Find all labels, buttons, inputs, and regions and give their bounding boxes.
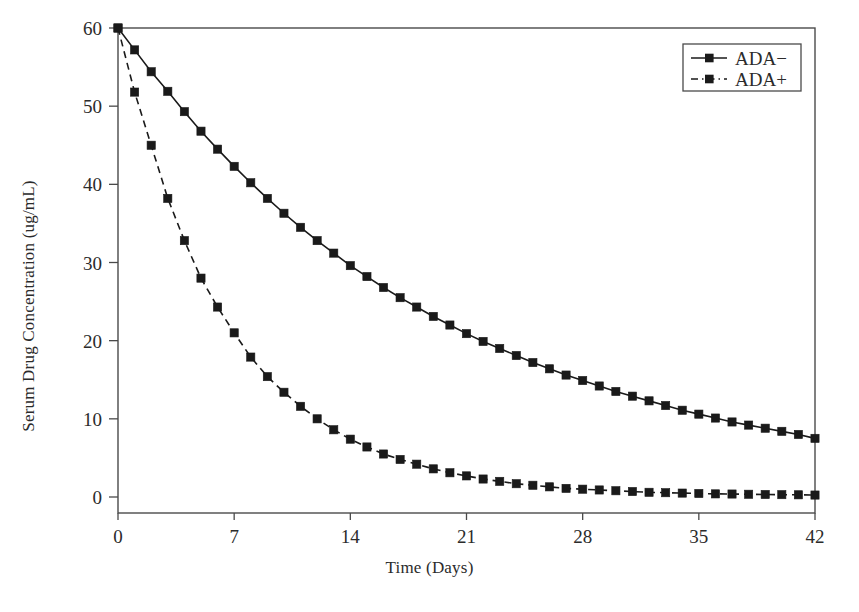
legend-marker-swatch xyxy=(705,75,714,84)
data-point-marker xyxy=(529,358,537,366)
data-point-marker xyxy=(263,194,271,202)
data-point-marker xyxy=(296,223,304,231)
data-point-marker xyxy=(363,443,371,451)
data-point-marker xyxy=(446,321,454,329)
y-tick-label: 30 xyxy=(83,253,102,274)
data-point-marker xyxy=(479,475,487,483)
data-point-marker xyxy=(811,491,819,499)
data-point-marker xyxy=(313,237,321,245)
data-point-marker xyxy=(695,489,703,497)
x-tick-label: 0 xyxy=(113,526,123,547)
data-point-marker xyxy=(579,376,587,384)
y-tick-label: 40 xyxy=(83,174,102,195)
data-point-marker xyxy=(728,418,736,426)
data-point-marker xyxy=(628,392,636,400)
data-point-marker xyxy=(263,373,271,381)
data-point-marker xyxy=(711,490,719,498)
data-point-marker xyxy=(811,434,819,442)
data-point-marker xyxy=(346,262,354,270)
y-tick-label: 20 xyxy=(83,331,102,352)
data-point-marker xyxy=(396,455,404,463)
x-tick-label: 7 xyxy=(229,526,239,547)
data-point-marker xyxy=(180,108,188,116)
data-point-marker xyxy=(230,162,238,170)
data-point-marker xyxy=(794,491,802,499)
data-point-marker xyxy=(562,484,570,492)
y-axis-title: Serum Drug Concentration (ug/mL) xyxy=(14,0,44,612)
serum-concentration-line-chart: 071421283542 0102030405060 ADA−ADA+ xyxy=(0,0,859,612)
x-tick-labels: 071421283542 xyxy=(113,526,824,547)
data-point-marker xyxy=(678,406,686,414)
x-axis-title: Time (Days) xyxy=(0,558,859,578)
data-point-marker xyxy=(778,427,786,435)
data-point-marker xyxy=(745,421,753,429)
legend-marker-swatch xyxy=(705,54,714,63)
data-point-marker xyxy=(562,371,570,379)
data-point-marker xyxy=(496,344,504,352)
data-point-marker xyxy=(612,487,620,495)
data-point-marker xyxy=(247,353,255,361)
x-tick-label: 28 xyxy=(573,526,592,547)
data-point-marker xyxy=(745,490,753,498)
data-point-marker xyxy=(678,489,686,497)
data-point-marker xyxy=(512,480,520,488)
data-point-marker xyxy=(197,274,205,282)
series-line xyxy=(118,28,815,495)
x-tick-label: 42 xyxy=(806,526,825,547)
data-point-marker xyxy=(346,435,354,443)
data-point-marker xyxy=(711,414,719,422)
legend-label: ADA+ xyxy=(735,69,787,90)
data-point-marker xyxy=(529,481,537,489)
data-point-marker xyxy=(197,127,205,135)
y-tick-label: 10 xyxy=(83,409,102,430)
data-point-marker xyxy=(230,329,238,337)
data-point-marker xyxy=(794,430,802,438)
data-point-marker xyxy=(379,450,387,458)
data-point-marker xyxy=(628,487,636,495)
data-point-marker xyxy=(512,351,520,359)
data-point-marker xyxy=(612,387,620,395)
data-point-marker xyxy=(413,460,421,468)
data-point-marker xyxy=(645,488,653,496)
y-tick-labels: 0102030405060 xyxy=(83,18,102,508)
data-point-marker xyxy=(645,397,653,405)
data-point-marker xyxy=(164,87,172,95)
data-point-marker xyxy=(496,477,504,485)
data-point-marker xyxy=(147,68,155,76)
data-point-marker xyxy=(213,145,221,153)
data-point-marker xyxy=(429,312,437,320)
data-point-marker xyxy=(446,469,454,477)
chart-legend[interactable]: ADA−ADA+ xyxy=(683,44,801,91)
data-point-marker xyxy=(147,141,155,149)
data-point-marker xyxy=(695,410,703,418)
data-point-marker xyxy=(180,237,188,245)
data-point-marker xyxy=(213,303,221,311)
data-point-marker xyxy=(462,330,470,338)
data-point-marker xyxy=(363,272,371,280)
x-tick-label: 14 xyxy=(341,526,361,547)
y-tick-label: 0 xyxy=(93,487,103,508)
data-point-marker xyxy=(429,465,437,473)
data-series-group xyxy=(114,24,819,499)
data-point-marker xyxy=(761,424,769,432)
x-tick-label: 35 xyxy=(689,526,708,547)
data-point-marker xyxy=(114,24,122,32)
data-point-marker xyxy=(396,294,404,302)
data-point-marker xyxy=(313,415,321,423)
data-point-marker xyxy=(280,209,288,217)
data-point-marker xyxy=(778,491,786,499)
data-point-marker xyxy=(330,249,338,257)
data-point-marker xyxy=(247,179,255,187)
series-2 xyxy=(114,24,819,499)
data-point-marker xyxy=(164,194,172,202)
x-tick-label: 21 xyxy=(457,526,476,547)
data-point-marker xyxy=(479,337,487,345)
data-point-marker xyxy=(761,490,769,498)
data-point-marker xyxy=(545,483,553,491)
data-point-marker xyxy=(330,426,338,434)
data-point-marker xyxy=(595,382,603,390)
data-point-marker xyxy=(131,88,139,96)
data-point-marker xyxy=(413,303,421,311)
data-point-marker xyxy=(131,46,139,54)
data-point-marker xyxy=(296,402,304,410)
